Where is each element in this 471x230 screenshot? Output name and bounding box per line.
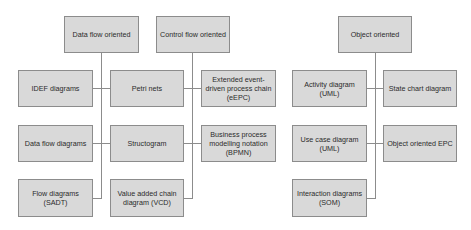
method-bpmn: Business process modelling notation (BPM…: [201, 125, 276, 162]
box-label: IDEF diagrams: [32, 84, 80, 93]
box-label: Extended event-driven process chain (eEP…: [205, 75, 272, 102]
modeling-methods-diagram: Data flow oriented Control flow oriented…: [0, 0, 471, 230]
connector: [92, 198, 102, 199]
box-label: Interaction diagrams (SOM): [296, 189, 363, 207]
box-label: Object oriented: [351, 30, 400, 39]
method-state-chart-diagram: State chart diagram: [383, 70, 457, 107]
method-value-added-chain-diagram: Value added chain diagram (VCD): [110, 179, 184, 217]
box-label: Use case diagram (UML): [296, 135, 363, 153]
box-label: State chart diagram: [389, 84, 452, 93]
category-data-flow-oriented: Data flow oriented: [64, 16, 139, 53]
box-label: Value added chain diagram (VCD): [114, 189, 180, 207]
connector: [366, 143, 383, 144]
method-data-flow-diagrams: Data flow diagrams: [18, 125, 93, 162]
method-idef-diagrams: IDEF diagrams: [18, 70, 93, 107]
box-label: Structogram: [127, 139, 166, 148]
method-object-oriented-epc: Object oriented EPC: [383, 125, 457, 162]
method-activity-diagram: Activity diagram (UML): [292, 70, 367, 107]
method-use-case-diagram: Use case diagram (UML): [292, 125, 367, 162]
method-eepc: Extended event-driven process chain (eEP…: [201, 70, 276, 107]
box-label: Control flow oriented: [160, 30, 226, 39]
connector: [366, 198, 376, 199]
connector: [184, 198, 193, 199]
category-control-flow-oriented: Control flow oriented: [156, 16, 230, 53]
connector: [192, 52, 193, 199]
box-label: Flow diagrams (SADT): [22, 189, 89, 207]
box-label: Activity diagram (UML): [296, 80, 363, 98]
method-petri-nets: Petri nets: [110, 70, 184, 107]
connector: [375, 52, 376, 199]
connector: [184, 143, 201, 144]
box-label: Data flow oriented: [73, 30, 131, 39]
box-label: Data flow diagrams: [25, 139, 87, 148]
connector: [92, 88, 110, 89]
connector: [101, 52, 102, 199]
connector: [92, 143, 110, 144]
method-structogram: Structogram: [110, 125, 184, 162]
connector: [366, 88, 383, 89]
method-interaction-diagrams: Interaction diagrams (SOM): [292, 179, 367, 217]
box-label: Petri nets: [132, 84, 162, 93]
connector: [184, 88, 201, 89]
method-flow-diagrams-sadt: Flow diagrams (SADT): [18, 179, 93, 217]
box-label: Object oriented EPC: [387, 139, 453, 148]
category-object-oriented: Object oriented: [338, 16, 412, 53]
box-label: Business process modelling notation (BPM…: [205, 130, 272, 157]
